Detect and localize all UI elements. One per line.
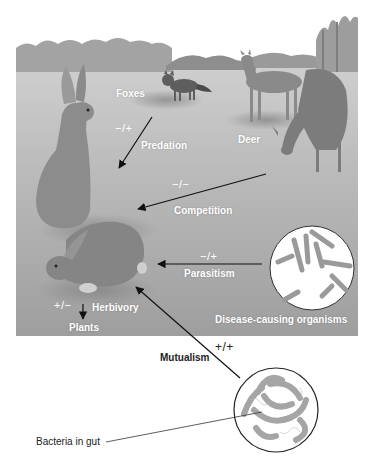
foxes-label: Foxes	[116, 88, 145, 99]
herbivory-label: Herbivory	[92, 302, 139, 313]
disease-organisms-label: Disease-causing organisms	[215, 314, 347, 325]
gut-bacteria-magnified	[234, 368, 318, 452]
competition-symbol: −/−	[172, 178, 189, 190]
herbivory-symbol: +/−	[54, 299, 71, 311]
arrows-and-bacteria	[0, 0, 373, 458]
plants-label: Plants	[69, 322, 99, 333]
bacteria-label: Bacteria in gut	[36, 436, 100, 447]
mutualism-label: Mutualism	[160, 352, 209, 363]
deer-label: Deer	[238, 134, 260, 145]
competition-label: Competition	[174, 205, 232, 216]
competition-arrow	[138, 174, 266, 209]
parasitism-label: Parasitism	[184, 268, 235, 279]
parasitism-symbol: −/+	[200, 250, 217, 262]
mutualism-arrow	[136, 287, 240, 378]
predation-symbol: −/+	[115, 122, 132, 134]
mutualism-symbol: +/+	[215, 340, 234, 354]
predation-label: Predation	[141, 140, 187, 151]
